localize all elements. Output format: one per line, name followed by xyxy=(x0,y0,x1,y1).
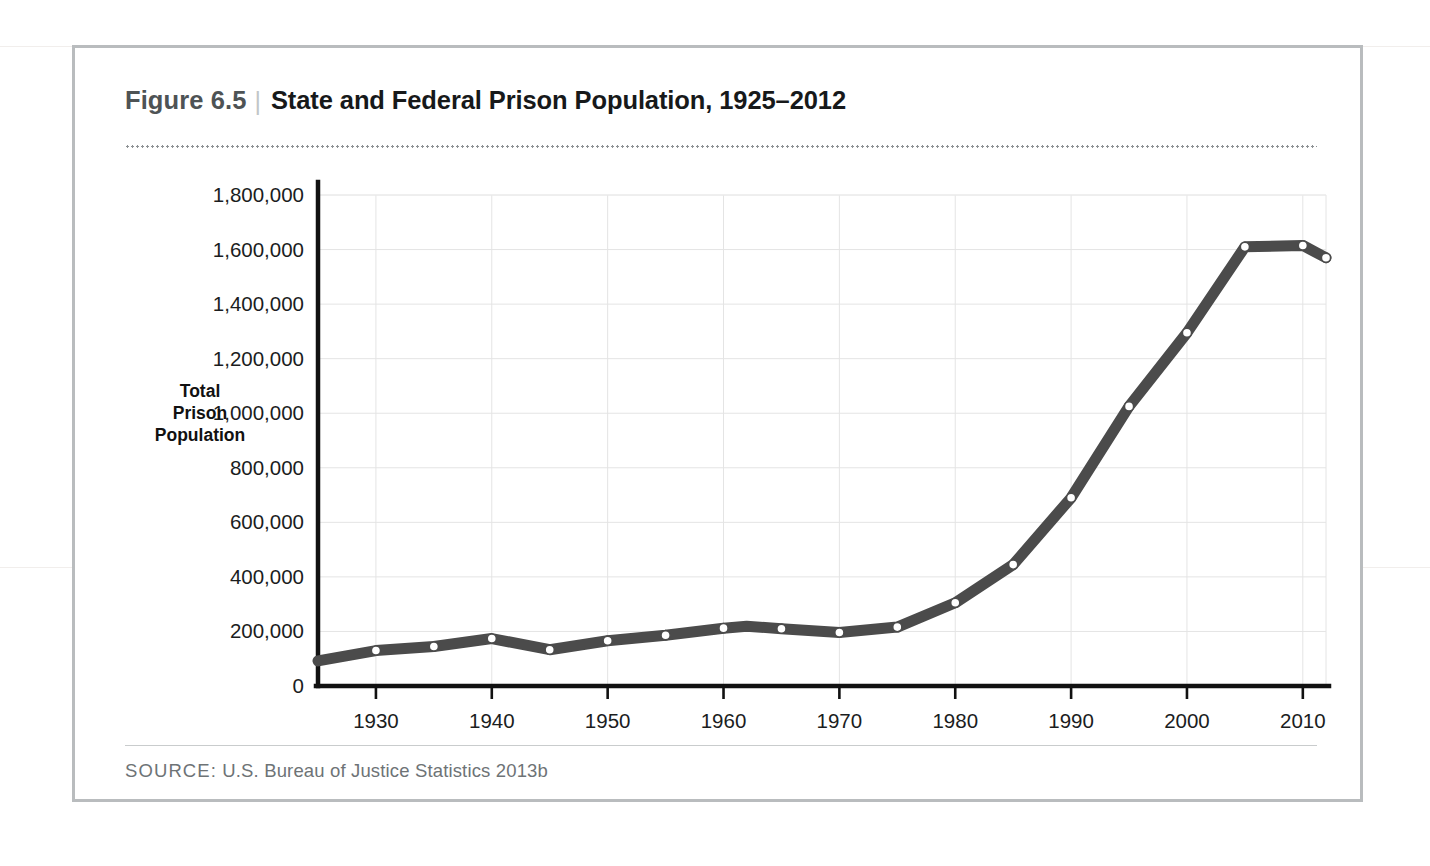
x-axis-tick-label: 2010 xyxy=(1280,709,1326,732)
y-axis-tick-label: 800,000 xyxy=(230,456,304,479)
x-axis-tick-label: 1940 xyxy=(469,709,515,732)
y-axis-tick-label: 1,800,000 xyxy=(213,183,304,206)
axis-lines xyxy=(316,182,1329,686)
x-axis-tick-label: 2000 xyxy=(1164,709,1210,732)
data-point-marker xyxy=(1067,493,1076,502)
y-axis-tick-label: 1,600,000 xyxy=(213,238,304,261)
data-point-marker xyxy=(1182,328,1191,337)
data-point-marker xyxy=(835,628,844,637)
data-point-marker xyxy=(1124,402,1133,411)
source-label: SOURCE: xyxy=(125,760,217,781)
y-axis-tick-label: 1,200,000 xyxy=(213,347,304,370)
y-axis-title-line: Total xyxy=(180,381,221,401)
data-point-marker xyxy=(1240,242,1249,251)
data-point-marker xyxy=(603,636,612,645)
y-axis-title-line: Population xyxy=(155,425,245,445)
x-axis-tick-label: 1930 xyxy=(353,709,399,732)
figure-frame: Figure 6.5|State and Federal Prison Popu… xyxy=(72,45,1363,802)
x-axis-tick-labels: 193019401950196019701980199020002010 xyxy=(353,709,1326,732)
x-axis-tick-label: 1950 xyxy=(585,709,631,732)
gridlines-vertical xyxy=(376,195,1326,686)
data-point-marker xyxy=(719,624,728,633)
data-point-marker xyxy=(429,642,438,651)
data-point-marker xyxy=(487,634,496,643)
data-point-marker xyxy=(1009,560,1018,569)
x-axis-tick-label: 1970 xyxy=(817,709,863,732)
data-point-marker xyxy=(661,631,670,640)
series-line xyxy=(318,245,1326,660)
data-point-marker xyxy=(371,646,380,655)
source-note: SOURCE: U.S. Bureau of Justice Statistic… xyxy=(125,760,548,782)
data-point-marker xyxy=(1321,253,1330,262)
data-point-marker xyxy=(1298,241,1307,250)
line-chart: 0200,000400,000600,000800,0001,000,0001,… xyxy=(75,48,1366,805)
data-series-line xyxy=(318,245,1326,660)
x-axis-tick-label: 1990 xyxy=(1048,709,1094,732)
y-axis-tick-label: 600,000 xyxy=(230,510,304,533)
data-point-marker xyxy=(545,645,554,654)
gridlines-horizontal xyxy=(318,195,1326,631)
source-divider xyxy=(125,745,1317,746)
data-point-marker xyxy=(777,624,786,633)
y-axis-title-line: Prison xyxy=(173,403,227,423)
y-axis-tick-label: 400,000 xyxy=(230,565,304,588)
data-point-marker xyxy=(893,622,902,631)
y-axis-tick-label: 1,400,000 xyxy=(213,292,304,315)
y-axis-tick-label: 0 xyxy=(293,674,304,697)
x-axis-tick-label: 1960 xyxy=(701,709,747,732)
y-axis-tick-label: 200,000 xyxy=(230,619,304,642)
x-axis-tick-label: 1980 xyxy=(932,709,978,732)
source-text: U.S. Bureau of Justice Statistics 2013b xyxy=(217,760,548,781)
data-point-marker xyxy=(951,598,960,607)
chart-plot-area: 0200,000400,000600,000800,0001,000,0001,… xyxy=(75,48,1366,805)
